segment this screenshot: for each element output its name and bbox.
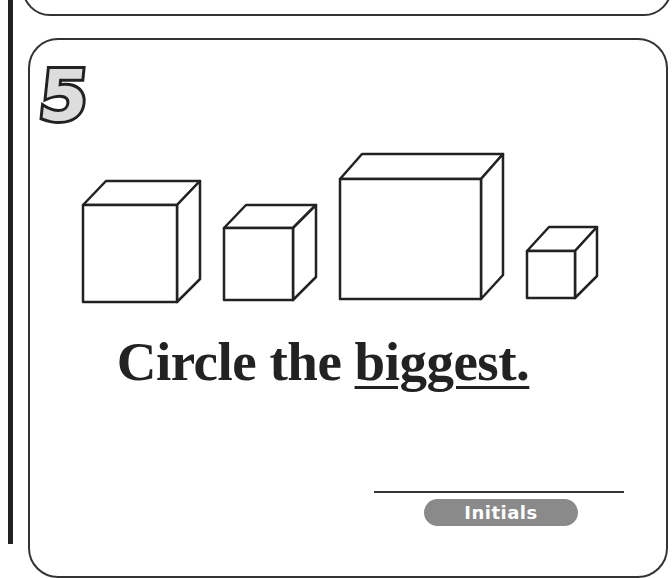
instruction-prefix: Circle the	[117, 331, 355, 392]
cube-1[interactable]	[83, 181, 200, 302]
cube-2[interactable]	[224, 205, 316, 300]
instruction-text: Circle the biggest.	[0, 330, 646, 393]
cube-4[interactable]	[527, 227, 597, 298]
instruction-emphasis: biggest.	[355, 331, 530, 392]
initials-signature-line[interactable]	[374, 491, 624, 493]
initials-label: Initials	[424, 499, 578, 526]
cube-3[interactable]	[340, 154, 503, 299]
